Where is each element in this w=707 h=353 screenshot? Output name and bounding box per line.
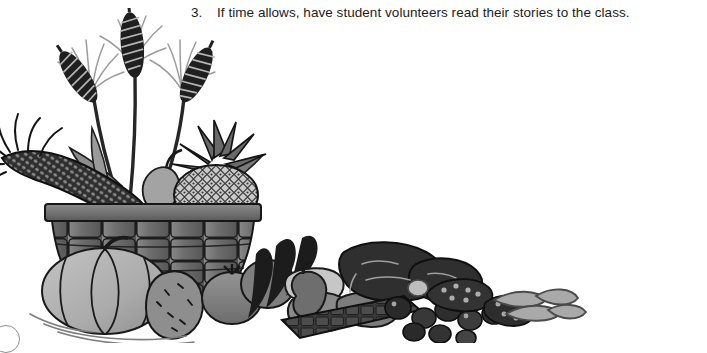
berries-and-nuts-icon bbox=[385, 279, 586, 343]
basket-rim bbox=[45, 204, 261, 221]
potato-icon bbox=[146, 271, 203, 338]
corn-cob-icon bbox=[0, 114, 146, 214]
harvest-basket-illustration bbox=[0, 8, 600, 343]
